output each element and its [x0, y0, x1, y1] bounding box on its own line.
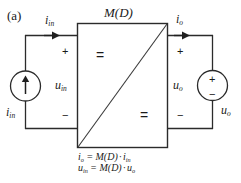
- left-source-subscript: in: [9, 111, 15, 120]
- output-current-subscript: o: [179, 18, 183, 27]
- output-minus-sign: −: [177, 110, 183, 121]
- eq2-dot: ·: [123, 162, 126, 173]
- input-current-subscript: in: [48, 19, 54, 28]
- block-equals-top: =: [96, 48, 104, 62]
- output-plus-sign: +: [177, 46, 183, 57]
- output-voltage-subscript: o: [179, 84, 183, 93]
- left-source-label: iin: [6, 106, 15, 118]
- vsource-plus-sign: +: [209, 74, 215, 85]
- eq1-equals: =: [87, 151, 93, 162]
- eq2-equals: =: [91, 162, 97, 173]
- right-source-label: uo: [221, 104, 231, 116]
- equation-line-1: io=M(D)·iin: [78, 151, 131, 162]
- input-voltage-label: uin: [55, 79, 67, 91]
- input-minus-sign: −: [62, 110, 68, 121]
- eq1-dot: ·: [119, 151, 122, 162]
- block-label-md: M(D): [104, 6, 133, 19]
- input-voltage-subscript: in: [61, 84, 67, 93]
- block-diagonal-line: [78, 24, 167, 147]
- right-source-subscript: o: [227, 109, 231, 118]
- input-current-label: iin: [45, 14, 54, 26]
- vsource-minus-sign: −: [209, 89, 215, 100]
- block-equals-bottom: =: [140, 108, 148, 122]
- eq2-rhs-subscript: o: [132, 167, 135, 174]
- figure-canvas: (a) M(D) iin io + − uin + − uo = = + − i…: [0, 0, 241, 183]
- equation-line-2: uin=M(D)·uo: [78, 162, 135, 173]
- eq1-gain: M(D): [96, 151, 118, 162]
- output-current-arrow-head: [182, 32, 190, 40]
- output-current-label: io: [176, 13, 183, 25]
- output-voltage-label: uo: [173, 79, 183, 91]
- eq2-gain: M(D): [99, 162, 121, 173]
- input-current-arrow-head: [52, 32, 60, 40]
- eq2-lhs-subscript: in: [83, 167, 88, 174]
- panel-label: (a): [7, 9, 21, 22]
- input-plus-sign: +: [62, 46, 68, 57]
